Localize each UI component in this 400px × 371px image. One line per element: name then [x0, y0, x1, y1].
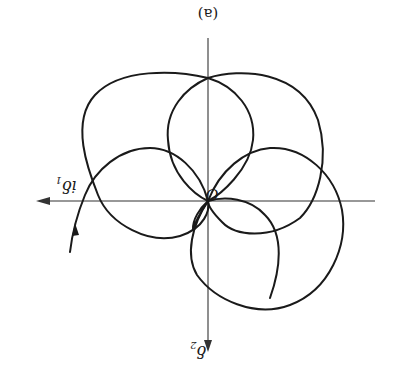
horizontal-axis-arrow-icon: [36, 197, 50, 205]
horizontal-axis-label: iδ1: [55, 175, 76, 196]
rosette-diagram: (a) O iδ1 δ2: [0, 0, 400, 371]
origin-label: O: [205, 185, 218, 204]
figure-caption: (a): [198, 5, 219, 23]
vertical-axis-label: δ2: [190, 340, 206, 361]
labels: (a) O iδ1 δ2: [55, 5, 218, 361]
